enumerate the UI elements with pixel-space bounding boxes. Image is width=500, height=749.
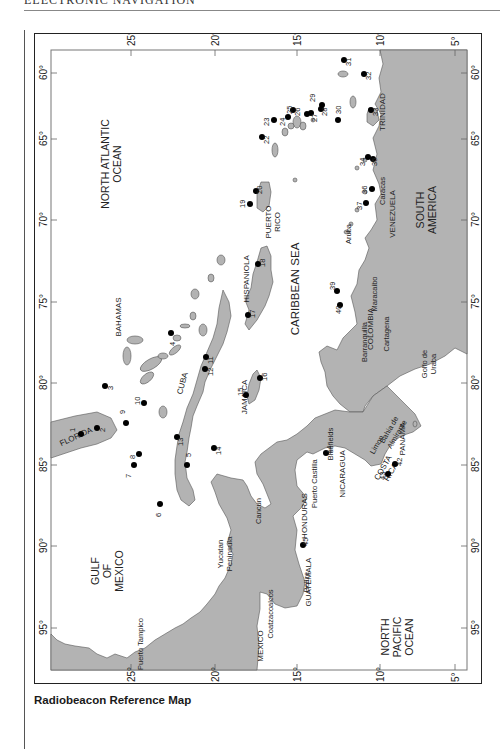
cartagena-label: Cartagena [382,316,391,352]
aruba-label: Aruba [344,223,353,244]
running-head: ELECTRONIC NAVIGATION [24,0,196,8]
svg-text:16: 16 [260,373,269,381]
svg-text:15: 15 [236,388,245,396]
lon-label-65-right: 65° [470,131,481,146]
figure-caption: Radiobeacon Reference Map [34,694,191,706]
lat-label-5-top: 5° [450,36,461,46]
svg-text:NORTH ATLANTIC: NORTH ATLANTIC [99,119,111,209]
beacon-4[interactable] [168,330,174,336]
svg-text:23: 23 [262,118,271,126]
beacon-9[interactable] [123,420,129,426]
svg-text:AMERICA: AMERICA [426,186,438,234]
lat-label-20-top: 20° [210,34,221,46]
svg-text:10: 10 [133,397,142,405]
svg-text:Uraba: Uraba [429,353,438,374]
belize-label: Belize [302,572,311,592]
svg-text:26: 26 [293,108,302,116]
beacon-36[interactable] [369,186,375,192]
left-longitude-labels: 60° 65° 70° 75° 80° 85° 90° 95° [38,65,49,635]
svg-text:Golfo de: Golfo de [420,350,429,378]
svg-text:8: 8 [128,455,137,459]
svg-text:44: 44 [325,446,334,454]
svg-text:PACIFIC: PACIFIC [391,616,403,657]
svg-text:12: 12 [206,368,215,376]
svg-text:14: 14 [214,447,223,455]
svg-text:20: 20 [255,186,264,194]
svg-text:42: 42 [395,458,404,466]
lon-label-75-right: 75° [470,294,481,309]
beacon-19[interactable] [247,201,253,207]
caribbean-sea-label: CARIBBEAN SEA [289,242,301,335]
beacon-6[interactable] [157,501,163,507]
lat-label-10-top: 10° [375,34,386,46]
map-canvas: 25° 20° 15° 10° 5° 25° 20° 15° 10° 5° 60… [35,34,483,685]
svg-text:18: 18 [258,259,267,267]
svg-text:35: 35 [370,158,379,166]
beacon-5[interactable] [184,462,190,468]
beacon-29[interactable] [319,102,325,108]
svg-text:Yucatan: Yucatan [216,540,225,569]
barranquilla-label: Barranquilla [360,321,369,362]
svg-text:29: 29 [308,94,317,102]
svg-text:6: 6 [154,513,163,517]
svg-text:NORTH: NORTH [379,618,391,655]
lon-label-90-right: 90° [470,538,481,553]
lon-label-80-left: 80° [38,375,49,390]
yucatan-peninsula-label: Yucatan Peninsula [216,536,234,572]
svg-text:OCEAN: OCEAN [403,618,415,655]
svg-text:43: 43 [378,472,387,480]
golfo-de-uraba-label: Golfo de Uraba [420,350,438,378]
svg-text:OCEAN: OCEAN [111,145,123,182]
lat-label-15-top: 15° [292,34,303,46]
svg-text:3: 3 [106,386,115,390]
lat-label-15-bottom: 15° [292,667,303,682]
svg-text:4: 4 [168,342,177,346]
svg-text:30: 30 [334,106,343,114]
lon-label-70-left: 70° [38,212,49,227]
svg-text:27: 27 [310,114,319,122]
right-longitude-labels: 60° 65° 70° 75° 80° 85° 90° 95° [470,65,481,635]
maracaibo-label: Maracaibo [370,276,379,311]
beacon-30[interactable] [335,117,341,123]
hispaniola-label: HISPANIOLA [242,255,251,303]
lat-label-5-bottom: 5° [450,672,461,682]
honduras-label: HONDURAS [300,493,309,539]
mexico-label: MEXICO [256,630,265,662]
svg-text:MEXICO: MEXICO [113,550,125,591]
svg-text:1: 1 [68,428,77,432]
svg-text:36: 36 [360,186,369,194]
beacon-7[interactable] [131,462,137,468]
puerto-tampico-label: Puerto Tampico [136,618,145,670]
header-rule [24,10,500,11]
svg-text:28: 28 [320,108,329,116]
svg-text:7: 7 [124,474,133,478]
svg-text:32: 32 [364,72,373,80]
svg-text:17: 17 [248,310,257,318]
svg-text:RICO: RICO [273,212,282,232]
svg-text:2: 2 [98,428,107,432]
coatzacoalcos-label: Coatzacoalcos [266,589,275,638]
beacon-23[interactable] [271,117,277,123]
lon-label-60-left: 60° [38,65,49,80]
beacon-1[interactable] [78,431,84,437]
south-america-label: SOUTH AMERICA [414,186,438,234]
lon-label-70-right: 70° [470,212,481,227]
svg-text:11: 11 [206,356,215,364]
lat-label-20-bottom: 20° [210,667,221,682]
bahamas-label: BAHAMAS [114,297,123,336]
cancun-label: Cancun [254,498,263,524]
lon-label-85-right: 85° [470,457,481,472]
lon-label-90-left: 90° [38,538,49,553]
svg-text:39: 39 [328,282,337,290]
svg-text:45: 45 [301,538,310,546]
north-pacific-label: NORTH PACIFIC OCEAN [379,616,415,657]
lat-label-25-top: 25° [126,34,137,46]
lat-label-10-bottom: 10° [375,667,386,682]
caracas-label: Caracas [378,177,387,205]
svg-text:37: 37 [355,202,364,210]
lon-label-80-right: 80° [470,375,481,390]
radiobeacon-map: 25° 20° 15° 10° 5° 25° 20° 15° 10° 5° 60… [34,33,482,684]
svg-text:24: 24 [278,118,287,126]
svg-text:Peninsula: Peninsula [225,536,234,572]
svg-text:5: 5 [184,453,193,457]
